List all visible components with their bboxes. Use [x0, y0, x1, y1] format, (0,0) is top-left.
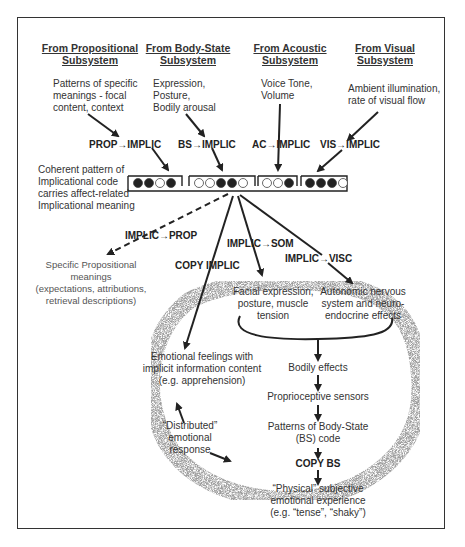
somatic-effects: Facial expression,posture, muscletension [233, 286, 313, 322]
propositional-meanings: Specific Propositionalmeanings(expectati… [35, 259, 147, 307]
empty-code-circle [339, 179, 348, 188]
empty-code-circle [263, 179, 272, 188]
ac-implic-label: AC→IMPLIC [252, 139, 310, 151]
filled-code-circle [145, 179, 154, 188]
empty-code-circle [274, 179, 283, 188]
filled-code-circle [306, 179, 315, 188]
ac-implic-arrow [278, 104, 280, 170]
bs-implic-label: BS→IMPLIC [178, 139, 236, 151]
implic-som-label: IMPLIC→SOM [227, 238, 294, 250]
visual-inputs: Ambient illumination,rate of visual flow [348, 83, 440, 107]
header-propositional: From PropositionalSubsystem [40, 42, 140, 66]
vis-implic-label: VIS→IMPLIC [320, 139, 380, 151]
emotional-feelings: Emotional feelings withimplicit informat… [142, 351, 262, 387]
filled-code-circle [317, 179, 326, 188]
implic-prop-label: IMPLIC→PROP [125, 230, 197, 242]
implicational-note: Coherent pattern ofImplicational codecar… [38, 164, 135, 212]
bodily-effects: Bodily effects [268, 362, 368, 374]
empty-code-circle [239, 179, 248, 188]
bs-input-line [186, 114, 204, 136]
bs-implic-arrow [212, 148, 222, 170]
header-visual: From VisualSubsystem [345, 42, 425, 66]
propositional-inputs: Patterns of specificmeanings - focalcont… [53, 78, 137, 114]
physical-experience: “Physical” subjectiveemotional experienc… [263, 483, 373, 519]
filled-code-circle [134, 179, 143, 188]
header-acoustic: From AcousticSubsystem [250, 42, 330, 66]
copy-implic-label: COPY IMPLIC [175, 260, 240, 272]
prop-implic-arrow [152, 148, 168, 170]
prop-implic-label: PROP→IMPLIC [89, 139, 161, 151]
empty-code-circle [206, 179, 215, 188]
body-state-patterns: Patterns of Body-State(BS) code [258, 421, 378, 445]
vis-input-line [348, 112, 378, 140]
empty-code-circle [195, 179, 204, 188]
code-circles [134, 179, 348, 188]
filled-code-circle [167, 179, 176, 188]
visceral-effects: Autonomic nervoussystem and neuro-endocr… [318, 286, 408, 322]
empty-code-circle [156, 179, 165, 188]
filled-code-circle [285, 179, 294, 188]
filled-code-circle [228, 179, 237, 188]
header-body-state: From Body-StateSubsystem [143, 42, 233, 66]
copy-bs-label: COPY BS [288, 458, 348, 470]
proprioceptive-sensors: Proprioceptive sensors [258, 391, 378, 403]
prop-input-line [88, 114, 118, 136]
implic-visc-label: IMPLIC→VISC [285, 253, 352, 265]
filled-code-circle [217, 179, 226, 188]
vis-implic-arrow [318, 150, 342, 171]
copy-implic-arrow [185, 196, 233, 348]
body-state-inputs: Expression,Posture,Bodily arousal [153, 78, 216, 114]
acoustic-inputs: Voice Tone,Volume [261, 78, 313, 102]
distributed-response: “Distributed”emotionalresponse [160, 420, 220, 456]
filled-code-circle [328, 179, 337, 188]
